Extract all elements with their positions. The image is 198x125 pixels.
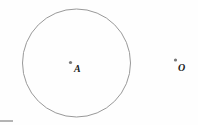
point-o-dot — [174, 58, 177, 61]
geometry-figure-canvas: A O — [0, 0, 198, 125]
point-o-label: O — [178, 63, 185, 73]
bottom-left-mark — [0, 120, 13, 122]
geometry-figure-svg — [0, 0, 198, 125]
point-a-dot — [69, 61, 72, 64]
point-a-label: A — [74, 64, 81, 74]
